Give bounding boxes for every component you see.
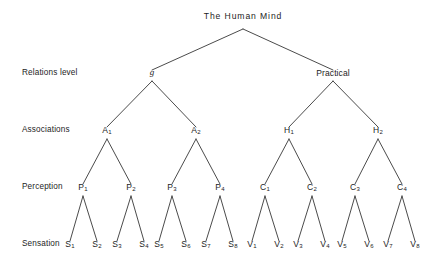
node-s3: S3 [112, 239, 121, 249]
edge-p2-to-s3 [117, 196, 131, 241]
edge-g-to-a1 [107, 81, 152, 127]
node-a2: A2 [191, 125, 200, 135]
row-label-sensation: Sensation [22, 239, 60, 248]
node-s2: S2 [92, 239, 101, 249]
edge-g-to-a2 [152, 81, 196, 127]
node-s8: S8 [228, 239, 237, 249]
root-node-label: The Human Mind [204, 11, 283, 21]
node-h2: H2 [373, 125, 383, 135]
edge-p1-to-s2 [83, 196, 97, 241]
edge-p1-to-s1 [70, 196, 83, 241]
edge-root-to-g [152, 29, 243, 70]
node-c3: C3 [350, 182, 360, 192]
node-s7: S7 [201, 239, 210, 249]
node-v2: V2 [274, 239, 283, 249]
node-v6: V6 [364, 239, 373, 249]
node-s6: S6 [181, 239, 190, 249]
edge-c2-to-v4 [312, 196, 325, 241]
node-c4: C4 [397, 182, 407, 192]
edge-h1-to-c2 [289, 139, 312, 184]
edge-c3-to-v5 [342, 196, 355, 241]
node-p3: P3 [167, 182, 176, 192]
edge-c1-to-v2 [265, 196, 279, 241]
edge-h1-to-c1 [265, 139, 289, 184]
diagram-canvas: The Human Mind Relations level Associati… [0, 0, 439, 264]
node-v1: V1 [247, 239, 256, 249]
node-v8: V8 [410, 239, 419, 249]
node-c1: C1 [260, 182, 270, 192]
edge-root-to-practical [243, 29, 333, 70]
edge-p2-to-s4 [131, 196, 144, 241]
edge-a1-to-p1 [83, 139, 107, 184]
node-p2: P2 [126, 182, 135, 192]
node-p1: P1 [78, 182, 87, 192]
node-p4: P4 [215, 182, 224, 192]
edge-p4-to-s7 [206, 196, 220, 241]
edge-a2-to-p3 [172, 139, 196, 184]
edge-a2-to-p4 [196, 139, 220, 184]
node-s5: S5 [154, 239, 163, 249]
edge-p3-to-s6 [172, 196, 186, 241]
node-c2: C2 [307, 182, 317, 192]
edge-h2-to-c4 [378, 139, 402, 184]
node-g: g [150, 67, 155, 77]
edge-c1-to-v1 [252, 196, 265, 241]
edge-a1-to-p2 [107, 139, 131, 184]
edge-c2-to-v3 [298, 196, 312, 241]
edge-c4-to-v8 [402, 196, 415, 241]
edge-practical-to-h2 [333, 81, 378, 127]
node-v3: V3 [293, 239, 302, 249]
node-v7: V7 [383, 239, 392, 249]
node-s1: S1 [65, 239, 74, 249]
row-label-relations-level: Relations level [22, 68, 78, 77]
node-v4: V4 [320, 239, 329, 249]
edge-p4-to-s8 [220, 196, 233, 241]
edge-practical-to-h1 [289, 81, 333, 127]
node-v5: V5 [337, 239, 346, 249]
edge-c3-to-v6 [355, 196, 369, 241]
row-label-associations: Associations [22, 125, 70, 134]
edge-c4-to-v7 [388, 196, 402, 241]
node-a1: A1 [102, 125, 111, 135]
node-s4: S4 [139, 239, 148, 249]
row-label-perception: Perception [22, 182, 63, 191]
node-h1: H1 [284, 125, 294, 135]
node-practical: Practical [316, 68, 350, 78]
edge-p3-to-s5 [159, 196, 172, 241]
edge-h2-to-c3 [355, 139, 378, 184]
